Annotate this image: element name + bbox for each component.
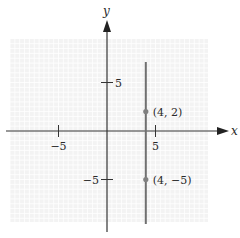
data-point [143,109,148,114]
point-label: (4, −5) [153,174,192,187]
x-tick-label: 5 [152,140,159,153]
coordinate-plane: x y −555−5 (4, 2)(4, −5) [0,0,240,238]
x-axis-arrow-icon [217,127,229,135]
y-tick-label: −5 [83,174,99,187]
point-label: (4, 2) [153,106,183,119]
y-tick-label: 5 [115,77,122,90]
y-axis-arrow-icon [103,20,111,32]
y-axis-label: y [102,4,110,18]
data-point [143,177,148,182]
x-axis-label: x [231,124,238,138]
x-tick-label: −5 [50,140,66,153]
